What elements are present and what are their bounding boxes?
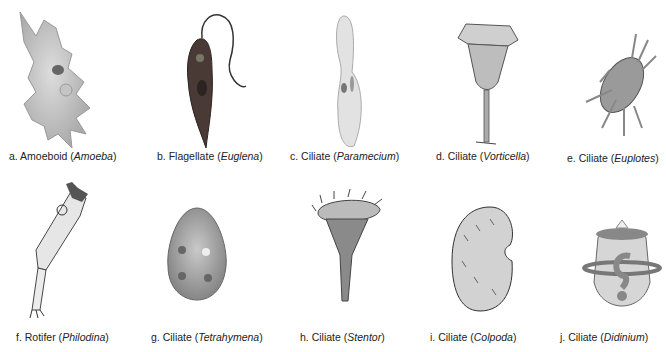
label-tetrahymena: g. Ciliate (Tetrahymena)	[151, 331, 263, 343]
tetrahymena-illustration	[164, 206, 230, 302]
euglena-illustration	[182, 10, 252, 150]
label-euglena: b. Flagellate (Euglena)	[157, 150, 263, 162]
label-euplotes: e. Ciliate (Euplotes)	[567, 152, 659, 164]
philodina-illustration	[16, 180, 96, 322]
label-philodina: f. Rotifer (Philodina)	[16, 331, 109, 343]
paramecium-illustration	[330, 12, 370, 150]
vorticella-illustration	[456, 22, 520, 148]
label-paramecium: c. Ciliate (Paramecium)	[290, 150, 399, 162]
label-amoeba: a. Amoeboid (Amoeba)	[9, 150, 116, 162]
euplotes-illustration	[582, 30, 662, 140]
stentor-illustration	[312, 185, 386, 305]
colpoda-illustration	[450, 205, 520, 315]
amoeba-illustration	[14, 8, 94, 148]
label-stentor: h. Ciliate (Stentor)	[300, 331, 385, 343]
label-vorticella: d. Ciliate (Vorticella)	[436, 150, 530, 162]
didinium-illustration	[584, 218, 660, 308]
label-didinium: j. Ciliate (Didinium)	[560, 331, 648, 343]
label-colpoda: i. Ciliate (Colpoda)	[430, 331, 516, 343]
